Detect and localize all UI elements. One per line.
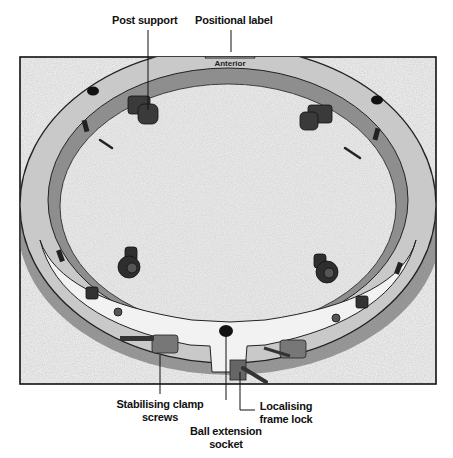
label-line: frame lock bbox=[256, 413, 316, 426]
ring-hole bbox=[371, 96, 383, 105]
label-stabilising-clamp-screws: Stabilising clamp screws bbox=[112, 398, 208, 424]
label-line: Localising bbox=[256, 400, 316, 413]
label-line: Ball extension bbox=[190, 425, 262, 438]
label-line: socket bbox=[190, 438, 262, 451]
label-ball-extension-socket: Ball extension socket bbox=[190, 425, 262, 451]
label-post-support: Post support bbox=[112, 14, 177, 27]
ring-hole bbox=[87, 87, 99, 96]
label-localising-frame-lock: Localising frame lock bbox=[256, 400, 316, 426]
head-ring-illustration: Anterior bbox=[0, 0, 453, 458]
label-positional-label: Positional label bbox=[195, 14, 273, 27]
anterior-engraving: Anterior bbox=[214, 59, 245, 68]
label-line: screws bbox=[112, 411, 208, 424]
label-line: Stabilising clamp bbox=[112, 398, 208, 411]
